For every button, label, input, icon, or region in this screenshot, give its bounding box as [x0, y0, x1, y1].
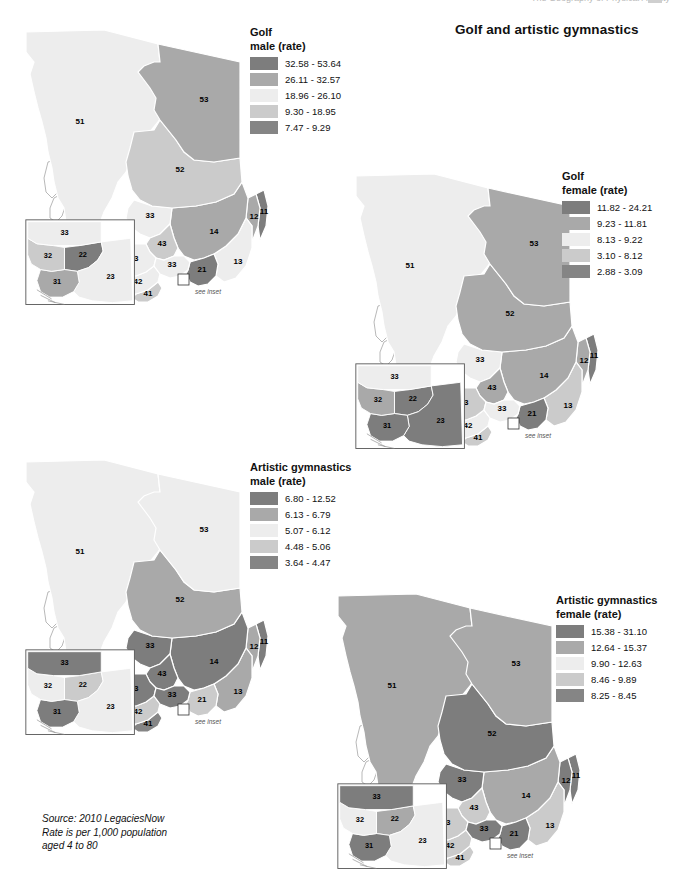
- region-label: 32: [44, 251, 52, 260]
- region-label: 12: [580, 356, 589, 365]
- region-label: 51: [388, 681, 397, 690]
- region-label: 21: [528, 409, 537, 418]
- region-label: 53: [200, 525, 209, 534]
- region-label: 41: [474, 433, 483, 442]
- legend-label: 18.96 - 26.10: [285, 90, 341, 101]
- region-label: 53: [530, 239, 539, 248]
- region-label: 33: [168, 690, 177, 699]
- region-label: 14: [210, 227, 219, 236]
- region-label: 51: [76, 547, 85, 556]
- legend-row: 9.30 - 18.95: [250, 103, 341, 119]
- region-label: 13: [234, 257, 243, 266]
- legend-swatch: [250, 105, 278, 118]
- legend-label: 7.47 - 9.29: [285, 122, 330, 133]
- region-label: 22: [79, 250, 87, 259]
- region-label: 43: [158, 669, 167, 678]
- legend-swatch: [556, 689, 584, 702]
- legend-row: 3.64 - 4.47: [250, 554, 351, 570]
- source-note: Source: 2010 LegaciesNow Rate is per 1,0…: [42, 812, 167, 853]
- legend-swatch: [556, 657, 584, 670]
- legend-row: 8.25 - 8.45: [556, 687, 657, 703]
- region-label: 32: [356, 815, 364, 824]
- region-label: 31: [365, 841, 373, 850]
- legend-golf-female: Golf female (rate) 11.82 - 24.219.23 - 1…: [562, 170, 652, 279]
- region-label: 12: [562, 776, 571, 785]
- region-label: 52: [488, 729, 497, 738]
- legend-swatch: [556, 641, 584, 654]
- legend-swatch: [250, 89, 278, 102]
- region-label: 11: [590, 351, 599, 360]
- region-label: 43: [488, 383, 497, 392]
- region-label: 41: [144, 719, 153, 728]
- inset-locator-box: [178, 274, 189, 285]
- region-label: 41: [456, 853, 465, 862]
- map-golf-female: 1112131421334142515253434333see inset222…: [338, 166, 588, 466]
- legend-swatch: [556, 673, 584, 686]
- region-label: 42: [134, 277, 143, 286]
- region-label: 32: [374, 395, 382, 404]
- legend-swatch: [250, 492, 278, 505]
- legend-label: 6.13 - 6.79: [285, 509, 330, 520]
- region-label: 23: [106, 702, 114, 711]
- map-svg-ag-male: 1112131421334142515253434333see inset222…: [8, 452, 258, 752]
- region-label: 33: [476, 355, 485, 364]
- legend-swatch: [562, 265, 590, 278]
- region-label: 42: [446, 841, 455, 850]
- region-label: 52: [176, 165, 185, 174]
- region-label: 14: [540, 371, 549, 380]
- region-label: 33: [146, 211, 155, 220]
- region-label: 31: [383, 421, 391, 430]
- legend-row: 15.38 - 31.10: [556, 623, 657, 639]
- legend-title-line1: Golf: [562, 170, 652, 184]
- legend-label: 9.30 - 18.95: [285, 106, 336, 117]
- legend-title-line1: Golf: [250, 26, 341, 40]
- region-label: 22: [391, 814, 399, 823]
- legend-title-line2: female (rate): [556, 608, 657, 622]
- legend-row: 12.64 - 15.37: [556, 639, 657, 655]
- region-label: 33: [458, 775, 467, 784]
- legend-label: 8.25 - 8.45: [591, 690, 636, 701]
- legend-swatch: [562, 201, 590, 214]
- region-label: 23: [106, 272, 114, 281]
- legend-row: 11.82 - 24.21: [562, 199, 652, 215]
- legend-row: 8.13 - 9.22: [562, 231, 652, 247]
- legend-label: 12.64 - 15.37: [591, 642, 647, 653]
- region-label: 51: [406, 261, 415, 270]
- region-label: 13: [546, 821, 555, 830]
- region-label: 53: [200, 95, 209, 104]
- region-label: 33: [480, 824, 489, 833]
- legend-swatch: [250, 73, 278, 86]
- region-label: 13: [234, 687, 243, 696]
- region-label: 42: [464, 421, 473, 430]
- region-label: 42: [134, 707, 143, 716]
- legend-title-line2: male (rate): [250, 475, 351, 489]
- map-artistic-gymnastics-female: 1112131421334142515253434333see inset222…: [320, 586, 570, 886]
- legend-row: 6.80 - 12.52: [250, 490, 351, 506]
- legend-label: 5.07 - 6.12: [285, 525, 330, 536]
- legend-swatch: [250, 540, 278, 553]
- legend-row: 18.96 - 26.10: [250, 87, 341, 103]
- inset-locator-box: [508, 418, 519, 429]
- region-label: 12: [250, 642, 259, 651]
- inset-map: 2223313233: [338, 784, 447, 869]
- legend-row: 8.46 - 9.89: [556, 671, 657, 687]
- legend-swatch: [562, 217, 590, 230]
- legend-row: 3.10 - 8.12: [562, 247, 652, 263]
- legend-label: 9.90 - 12.63: [591, 658, 642, 669]
- region-label: 33: [168, 260, 177, 269]
- see-inset-caption: see inset: [195, 288, 222, 295]
- legend-classes: 15.38 - 31.1012.64 - 15.379.90 - 12.638.…: [556, 623, 657, 703]
- legend-label: 8.46 - 9.89: [591, 674, 636, 685]
- region-label: 43: [158, 239, 167, 248]
- inset-locator-box: [178, 704, 189, 715]
- legend-label: 2.88 - 3.09: [597, 266, 642, 277]
- running-header-rule: [648, 0, 662, 3]
- legend-label: 3.64 - 4.47: [285, 557, 330, 568]
- map-svg-golf-male: 1112131421334142515253434333see inset222…: [8, 22, 258, 322]
- legend-row: 32.58 - 53.64: [250, 55, 341, 71]
- legend-title-line1: Artistic gymnastics: [556, 594, 657, 608]
- region-label: 11: [260, 637, 269, 646]
- legend-swatch: [562, 233, 590, 246]
- region-label: 41: [144, 289, 153, 298]
- region-label: 23: [418, 836, 426, 845]
